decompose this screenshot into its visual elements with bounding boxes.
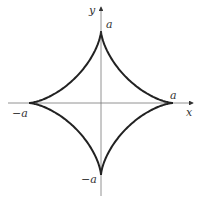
- astroid-diagram: y x a a −a −a: [0, 0, 204, 202]
- label-top-a: a: [106, 18, 113, 31]
- label-bottom-neg-a: −a: [81, 173, 97, 186]
- y-axis-label: y: [88, 4, 96, 17]
- label-right-a: a: [170, 89, 177, 102]
- x-axis-label: x: [186, 106, 193, 119]
- label-left-neg-a: −a: [12, 107, 28, 120]
